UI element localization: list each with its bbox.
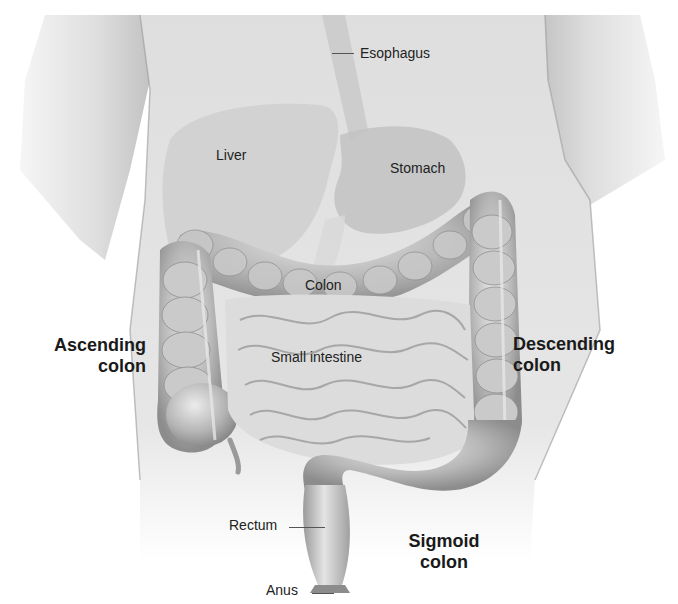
label-descending-colon: Descending colon <box>513 334 615 376</box>
label-ascending-colon: Ascending colon <box>36 335 146 377</box>
anus-leader-line <box>312 593 334 594</box>
anus <box>310 585 350 593</box>
label-small-intestine: Small intestine <box>271 350 362 364</box>
anatomy-illustration <box>0 0 678 604</box>
label-descending-colon-line2: colon <box>513 355 615 376</box>
label-liver: Liver <box>216 148 246 162</box>
label-descending-colon-line1: Descending <box>513 334 615 355</box>
left-arm <box>20 15 150 260</box>
rectum <box>303 485 350 585</box>
label-stomach: Stomach <box>390 161 445 175</box>
label-anus: Anus <box>266 583 298 597</box>
esophagus-leader-line <box>332 53 354 54</box>
label-esophagus: Esophagus <box>360 46 430 60</box>
label-rectum: Rectum <box>229 518 277 532</box>
digestive-system-diagram: Esophagus Liver Stomach Colon Small inte… <box>0 0 678 604</box>
label-sigmoid-colon-line2: colon <box>396 552 492 573</box>
cecum <box>166 383 238 447</box>
rectum-leader-line <box>289 527 325 528</box>
label-sigmoid-colon-line1: Sigmoid <box>396 531 492 552</box>
label-ascending-colon-line1: Ascending <box>36 335 146 356</box>
label-sigmoid-colon: Sigmoid colon <box>396 531 492 573</box>
label-colon: Colon <box>305 278 342 292</box>
label-ascending-colon-line2: colon <box>36 356 146 377</box>
